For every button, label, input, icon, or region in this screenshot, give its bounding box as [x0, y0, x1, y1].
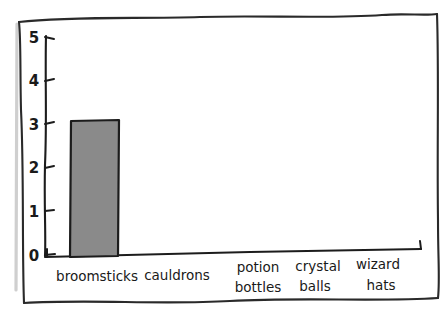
cat-label-crystal-balls-line2: balls: [299, 278, 330, 294]
y-tick-label-3: 3: [29, 116, 39, 134]
cat-label-potion-bottles-line1: potion: [237, 259, 280, 275]
cat-label-wizard-hats-line1: wizard: [356, 256, 400, 272]
bar-series: broomsticks: 3: [70, 120, 119, 257]
cat-label-wizard-hats-line2: hats: [366, 277, 395, 293]
y-tick-2: [45, 166, 54, 168]
frame-bottom-edge: [24, 298, 438, 303]
x-axis-end-tick: [420, 241, 421, 249]
y-tick-label-4: 4: [29, 72, 39, 90]
y-axis-line: [45, 36, 46, 256]
y-tick-label-0: 0: [29, 247, 39, 265]
chart-figure: 5 4 3 2 1 0 broomsticks: 3 broomsticks c…: [0, 0, 447, 314]
y-axis: 5 4 3 2 1 0: [29, 29, 55, 265]
frame-right-edge: [437, 14, 439, 298]
bar-broomsticks[interactable]: broomsticks: 3: [70, 120, 119, 257]
bar-chart-svg: 5 4 3 2 1 0 broomsticks: 3 broomsticks c…: [0, 0, 447, 314]
y-tick-label-5: 5: [29, 29, 39, 47]
cat-label-potion-bottles-line2: bottles: [235, 279, 282, 295]
y-tick-label-1: 1: [29, 203, 39, 221]
frame-top-edge: [19, 14, 437, 22]
y-tick-label-2: 2: [29, 159, 39, 177]
cat-label-broomsticks-line1: broomsticks: [56, 268, 138, 284]
cat-label-cauldrons-line1: cauldrons: [144, 267, 210, 283]
frame-left-shadow: [16, 24, 17, 290]
y-tick-1: [45, 210, 54, 211]
cat-label-crystal-balls-line1: crystal: [295, 258, 340, 274]
x-axis-category-labels: broomsticks cauldrons potion bottles cry…: [56, 256, 400, 295]
frame-left-edge: [19, 22, 24, 303]
